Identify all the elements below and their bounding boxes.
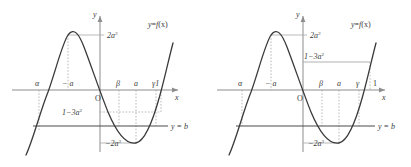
left-figure-panel: y x O 2a3 −2a3 1−3a2 α − a β a γ1 y=f(x)… [0, 0, 206, 167]
left-x-axis-label: x [174, 93, 179, 102]
right-tick-alpha: α [238, 79, 243, 88]
right-min-label: −2a3 [308, 139, 324, 148]
left-tick-beta: β [115, 79, 120, 88]
right-tick-one: 1 [373, 79, 377, 88]
left-line-b-label: y = b [170, 122, 188, 131]
left-curve-label: y=f(x) [147, 20, 168, 29]
left-tick-a: a [134, 79, 138, 88]
left-labels: y x O 2a3 −2a3 1−3a2 α − a β a γ1 y=f(x)… [35, 10, 188, 148]
right-figure-panel: y x O 2a3 −2a3 1−3a2 α − a β a γ 1 y=f(x… [205, 0, 411, 167]
right-max-label: 2a3 [310, 31, 321, 40]
left-mid-label: 1−3a2 [62, 108, 82, 117]
right-tick-neg-a: − a [265, 79, 276, 88]
right-curve-label: y=f(x) [350, 20, 371, 29]
left-tick-alpha: α [35, 79, 40, 88]
right-tick-a: a [337, 79, 341, 88]
left-max-label: 2a3 [107, 31, 118, 40]
figure-container: y x O 2a3 −2a3 1−3a2 α − a β a γ1 y=f(x)… [0, 0, 411, 167]
right-x-axis-label: x [381, 93, 386, 102]
left-figure-svg: y x O 2a3 −2a3 1−3a2 α − a β a γ1 y=f(x)… [0, 0, 206, 167]
right-figure-svg: y x O 2a3 −2a3 1−3a2 α − a β a γ 1 y=f(x… [205, 0, 411, 167]
left-y-axis-label: y [92, 10, 97, 19]
right-mid-label: 1−3a2 [304, 52, 324, 61]
left-min-label: −2a3 [105, 139, 121, 148]
right-origin-label: O [297, 94, 303, 103]
right-tick-gamma: γ [356, 79, 360, 88]
left-tick-neg-a: − a [62, 79, 73, 88]
left-tick-gamma-one: γ1 [152, 79, 159, 88]
right-labels: y x O 2a3 −2a3 1−3a2 α − a β a γ 1 y=f(x… [238, 10, 395, 148]
left-origin-label: O [95, 94, 101, 103]
right-y-axis-label: y [295, 10, 300, 19]
right-line-b-label: y = b [377, 122, 395, 131]
right-tick-beta: β [318, 79, 323, 88]
